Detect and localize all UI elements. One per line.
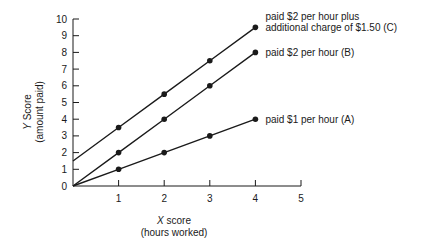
y-axis-subtitle: (amount paid) [34,81,45,143]
y-axis-title: Y Score [22,94,33,130]
y-tick-label: 7 [61,64,67,75]
y-tick-label: 1 [61,164,67,175]
data-point [207,83,213,89]
y-tick-label: 10 [56,14,68,25]
y-tick-label: 4 [61,114,67,125]
series-label: paid $2 per hour (B) [265,47,354,58]
data-point [207,133,213,139]
x-tick-label: 5 [298,193,304,204]
data-point [116,125,122,131]
series-group [73,25,258,186]
data-point [253,50,259,56]
data-point [161,150,167,156]
x-axis-subtitle: (hours worked) [141,227,208,238]
y-tick-label: 9 [61,30,67,41]
x-tick-label: 3 [207,193,213,204]
data-point [253,116,259,122]
x-axis-title: X score [156,215,191,226]
y-tick-label: 2 [61,147,67,158]
axes: 01234567891012345 [56,14,304,205]
data-point [116,167,122,173]
data-point [161,91,167,97]
data-point [116,150,122,156]
y-tick-label: 3 [61,130,67,141]
series-label: additional charge of $1.50 (C) [265,22,397,33]
x-tick-label: 2 [161,193,167,204]
series-label: paid $1 per hour (A) [265,114,354,125]
data-point [253,25,259,31]
y-tick-label: 5 [61,97,67,108]
line-chart: 01234567891012345 X score(hours worked)Y… [0,0,429,245]
y-tick-label: 0 [61,181,67,192]
y-tick-label: 8 [61,47,67,58]
series-label: paid $2 per hour plus [265,11,359,22]
x-tick-label: 1 [116,193,122,204]
y-tick-label: 6 [61,80,67,91]
data-point [207,58,213,64]
x-tick-label: 4 [253,193,259,204]
data-point [161,116,167,122]
